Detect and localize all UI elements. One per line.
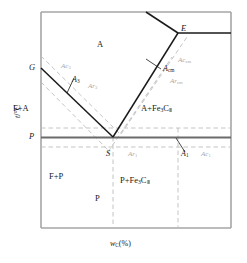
- dashed-transformation-lines: [41, 37, 231, 228]
- se-line: [113, 33, 178, 137]
- a1-leader-line: [176, 138, 185, 152]
- solid-phase-boundaries: [41, 12, 231, 137]
- plot-frame: [41, 12, 231, 228]
- a3-leader-line: [67, 78, 74, 93]
- liquidus-stub-line: [146, 12, 178, 33]
- phase-diagram: t/°C wC(%) A F+A A+Fe3CⅡ F+P P P+Fe3CⅡ G…: [0, 0, 247, 263]
- arcm-dashed-line: [121, 37, 187, 134]
- ar3-dashed-line: [41, 82, 109, 151]
- phase-diagram-canvas: [0, 0, 247, 263]
- gs-line: [41, 68, 113, 137]
